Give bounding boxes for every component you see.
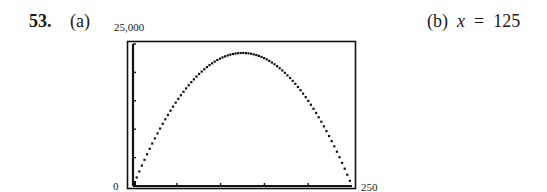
plot-axes (132, 44, 352, 186)
plot-frame (128, 42, 356, 189)
graphing-calculator-plot (0, 0, 547, 192)
plot-curve (133, 52, 351, 185)
